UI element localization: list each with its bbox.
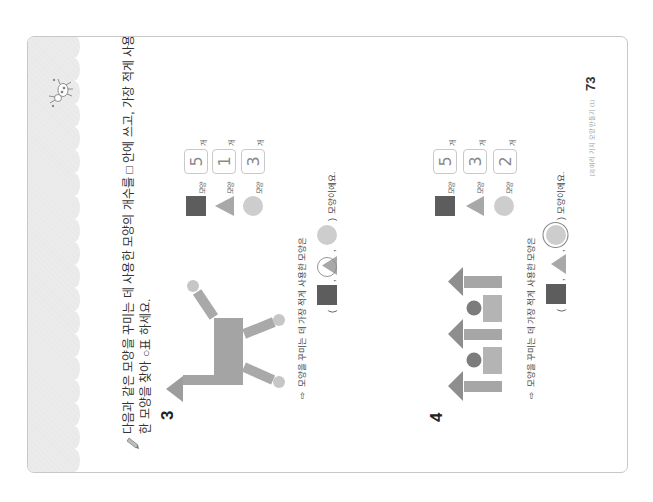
square-count-unit: 개 xyxy=(449,140,457,146)
square-label: 모양 xyxy=(199,182,207,194)
square-count-box: 5 xyxy=(184,149,208,174)
figure-rectangle xyxy=(464,276,502,288)
answer-suffix: 모양이에요. xyxy=(556,172,566,214)
triangle-count-unit: 개 xyxy=(479,140,487,146)
figure-rectangle xyxy=(483,295,502,322)
separator: , xyxy=(556,278,566,281)
problem-4-figure xyxy=(448,267,502,401)
option-circle-icon xyxy=(546,225,566,245)
triangle-count-box: 3 xyxy=(463,149,487,174)
pencil-icon xyxy=(127,438,139,449)
figure-rectangle xyxy=(242,362,275,384)
problem-3-answer-options xyxy=(317,225,337,305)
separator: , xyxy=(327,249,337,252)
open-paren: ( xyxy=(556,309,566,312)
figure-circle xyxy=(467,353,482,368)
figure-circle xyxy=(187,280,199,292)
problem-3-figure xyxy=(166,280,285,402)
open-paren: ( xyxy=(327,310,337,313)
figure-circle xyxy=(273,376,285,388)
problem-4-number: 4 xyxy=(428,413,446,422)
close-paren: ) xyxy=(556,217,566,220)
problem-4-answer-options xyxy=(543,223,568,305)
page-number: 73 xyxy=(584,77,598,91)
footer-unit-label: [3] 여러 가지 모양 만들기 (1) xyxy=(589,100,596,176)
triangle-label: 모양 xyxy=(477,182,485,194)
top-scalloped-band xyxy=(28,36,80,472)
triangle-shape-icon xyxy=(215,196,234,216)
answer-prompt: 모양을 꾸미는 데 가장 적게 사용한 모양은 xyxy=(297,237,307,387)
option-square-icon xyxy=(546,284,566,304)
figure-rectangle xyxy=(464,329,502,340)
close-paren: ) xyxy=(327,218,337,221)
instruction-line-1: 다음과 같은 모양을 꾸미는 데 사용한 모양의 개수를 □ 안에 쓰고, 가장… xyxy=(122,36,136,434)
page-graphics xyxy=(28,36,628,472)
circle-shape-icon xyxy=(243,196,263,216)
option-square-icon xyxy=(317,285,337,305)
triangle-shape-icon xyxy=(466,196,484,216)
figure-triangle xyxy=(448,371,463,401)
square-count-unit: 개 xyxy=(200,140,208,146)
figure-circle xyxy=(273,314,285,326)
circle-count-box: 2 xyxy=(493,149,517,174)
circle-count-unit: 개 xyxy=(257,140,265,146)
figure-triangle xyxy=(448,319,463,349)
figure-circle xyxy=(467,301,482,316)
square-shape-icon xyxy=(186,196,206,216)
answer-suffix: 모양이에요. xyxy=(327,172,337,214)
option-triangle-icon xyxy=(551,254,566,274)
square-shape-icon xyxy=(435,196,455,216)
figure-triangle xyxy=(448,267,463,296)
arrow-icon: ⇨ xyxy=(526,392,536,399)
figure-rectangle xyxy=(464,381,502,392)
problem-3-legend-icons xyxy=(186,196,263,216)
triangle-label: 모양 xyxy=(227,182,235,194)
square-count-box: 5 xyxy=(433,149,457,174)
figure-rectangle xyxy=(214,318,243,385)
figure-rectangle xyxy=(193,289,218,319)
separator: , xyxy=(556,249,566,252)
workbook-page: 다음과 같은 모양을 꾸미는 데 사용한 모양의 개수를 □ 안에 쓰고, 가장… xyxy=(27,36,628,473)
triangle-count-box: 1 xyxy=(212,149,236,174)
figure-triangle xyxy=(166,376,183,402)
figure-rectangle xyxy=(483,347,502,374)
circle-count-box: 3 xyxy=(241,149,265,174)
figure-rectangle xyxy=(242,317,275,338)
square-label: 모양 xyxy=(448,182,456,194)
option-circle-icon xyxy=(317,225,337,245)
circle-label: 모양 xyxy=(256,182,264,194)
answer-prompt: 모양을 꾸미는 데 가장 적게 사용한 모양은 xyxy=(526,237,536,387)
problem-4-legend-icons xyxy=(435,196,514,216)
figure-rectangle xyxy=(183,375,214,385)
arrow-icon: ⇨ xyxy=(297,392,307,399)
instruction-line-2: 한 모양을 찾아 ○표 하세요. xyxy=(139,298,153,434)
circle-shape-icon xyxy=(494,196,514,216)
problem-3-number: 3 xyxy=(159,411,177,420)
separator: , xyxy=(327,279,337,282)
triangle-count-unit: 개 xyxy=(228,140,236,146)
circle-label: 모양 xyxy=(506,182,514,194)
circle-count-unit: 개 xyxy=(509,140,517,146)
